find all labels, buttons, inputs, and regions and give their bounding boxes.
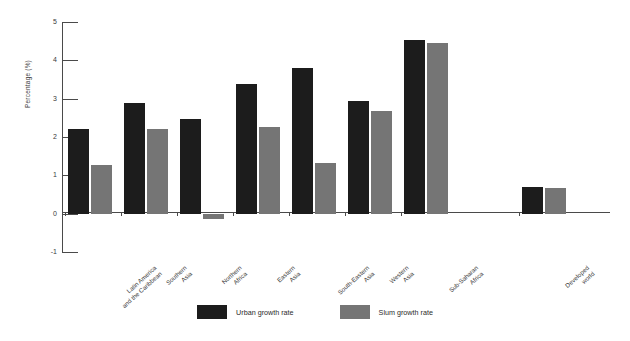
bar-urban xyxy=(292,68,313,214)
chart-legend: Urban growth rateSlum growth rate xyxy=(0,305,630,319)
x-category-label: South-EasternAsia xyxy=(336,264,376,302)
y-axis-title: Percentage (%) xyxy=(24,39,31,129)
x-tick-mark xyxy=(345,212,346,216)
bar-slum xyxy=(91,165,112,214)
x-tick-mark xyxy=(233,212,234,216)
x-category-label: WesternAsia xyxy=(388,264,415,291)
y-tick-label: 1 xyxy=(32,170,57,179)
x-category-label: NorthernAfrica xyxy=(220,264,248,291)
bar-chart: Percentage (%) -1012345 Latin Americaand… xyxy=(0,0,630,341)
legend-label: Urban growth rate xyxy=(236,308,294,317)
legend-label: Slum growth rate xyxy=(379,308,433,317)
legend-swatch xyxy=(340,305,370,319)
bar-slum xyxy=(147,129,168,213)
x-tick-mark xyxy=(177,212,178,216)
bar-urban xyxy=(236,84,257,213)
x-category-label: Sub-SaharanAfrica xyxy=(447,264,484,300)
bar-urban xyxy=(404,40,425,213)
bar-urban xyxy=(348,101,369,214)
y-tick-label: 2 xyxy=(32,132,57,141)
x-category-label: SouthernAsia xyxy=(164,264,193,292)
x-category-label: EasternAsia xyxy=(275,264,301,290)
y-tick-mark xyxy=(62,252,78,253)
y-tick-label: 5 xyxy=(32,17,57,26)
x-tick-mark xyxy=(65,212,66,216)
x-tick-mark xyxy=(401,212,402,216)
y-tick: -1 xyxy=(32,252,78,253)
legend-item[interactable]: Slum growth rate xyxy=(340,305,433,319)
bars-layer xyxy=(62,22,610,252)
bar-slum xyxy=(259,127,280,214)
bar-urban xyxy=(522,187,543,214)
x-tick-mark xyxy=(121,212,122,216)
bar-slum xyxy=(371,111,392,214)
bar-urban xyxy=(68,129,89,213)
y-tick-label: 4 xyxy=(32,55,57,64)
bar-urban xyxy=(180,119,201,214)
x-category-label: Developedworld xyxy=(564,264,596,295)
plot-area: -1012345 Latin Americaand the CaribbeanS… xyxy=(62,22,610,252)
y-tick-label: 0 xyxy=(32,209,57,218)
bar-slum xyxy=(203,214,224,220)
bar-slum xyxy=(315,163,336,214)
legend-item[interactable]: Urban growth rate xyxy=(197,305,294,319)
x-tick-mark xyxy=(519,212,520,216)
x-tick-mark xyxy=(289,212,290,216)
x-category-label: Latin Americaand the Caribbean xyxy=(115,264,163,309)
bar-urban xyxy=(124,103,145,213)
y-tick-label: 3 xyxy=(32,94,57,103)
bar-slum xyxy=(427,43,448,214)
y-tick-label: -1 xyxy=(32,247,57,256)
legend-swatch xyxy=(197,305,227,319)
bar-slum xyxy=(545,188,566,214)
